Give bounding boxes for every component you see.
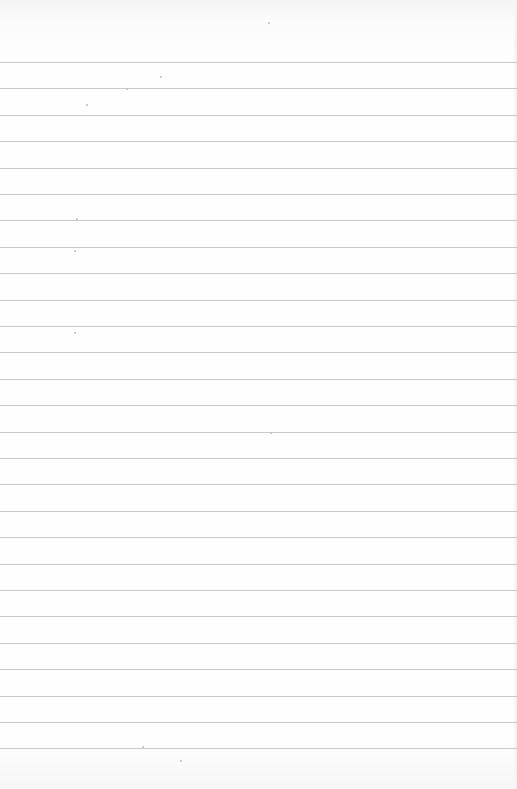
ruled-line <box>0 247 517 248</box>
ruled-line <box>0 220 517 221</box>
ruled-line <box>0 273 517 274</box>
paper-speck <box>270 432 272 434</box>
paper-speck <box>76 218 78 220</box>
ruled-line <box>0 669 517 670</box>
ruled-line <box>0 168 517 169</box>
ruled-line <box>0 616 517 617</box>
paper-speck <box>74 332 76 334</box>
ruled-line <box>0 696 517 697</box>
ruled-line <box>0 748 517 749</box>
paper-speck <box>142 746 144 748</box>
ruled-line <box>0 300 517 301</box>
ruled-line <box>0 537 517 538</box>
ruled-line <box>0 62 517 63</box>
ruled-line <box>0 379 517 380</box>
lined-paper-sheet <box>0 0 517 789</box>
ruled-line <box>0 194 517 195</box>
ruled-line <box>0 115 517 116</box>
ruled-line <box>0 88 517 89</box>
ruled-line <box>0 458 517 459</box>
ruled-line <box>0 511 517 512</box>
ruled-line <box>0 722 517 723</box>
ruled-line <box>0 326 517 327</box>
ruled-line <box>0 352 517 353</box>
ruled-line <box>0 432 517 433</box>
ruled-line <box>0 484 517 485</box>
paper-speck <box>268 22 270 24</box>
paper-speck <box>74 250 76 252</box>
paper-speck <box>126 88 128 90</box>
ruled-line <box>0 643 517 644</box>
ruled-line <box>0 405 517 406</box>
paper-speck <box>86 104 88 106</box>
ruled-line <box>0 564 517 565</box>
paper-speck <box>180 760 182 762</box>
paper-speck <box>160 76 162 78</box>
ruled-line <box>0 141 517 142</box>
ruled-line <box>0 590 517 591</box>
